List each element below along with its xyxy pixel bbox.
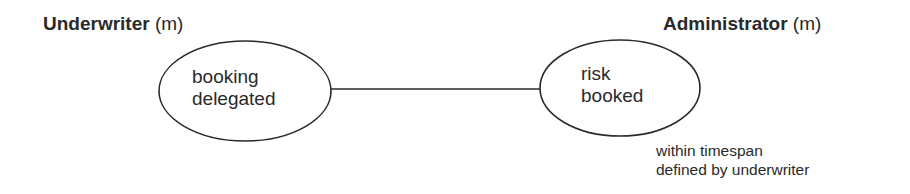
note-line2: defined by underwriter: [656, 160, 809, 179]
role-administrator: Administrator (m): [663, 13, 821, 35]
role-underwriter: Underwriter (m): [43, 13, 183, 35]
role-qualifier: (m): [793, 13, 821, 34]
state-line1: risk: [581, 63, 643, 85]
state-line2: booked: [581, 85, 643, 107]
state-label-risk-booked: risk booked: [581, 63, 643, 107]
state-line2: delegated: [192, 88, 275, 110]
role-name: Underwriter: [43, 13, 150, 34]
role-qualifier: (m): [155, 13, 183, 34]
state-label-booking-delegated: booking delegated: [192, 66, 275, 110]
state-line1: booking: [192, 66, 275, 88]
note-line1: within timespan: [656, 141, 809, 160]
role-name: Administrator: [663, 13, 788, 34]
timespan-note: within timespan defined by underwriter: [656, 141, 809, 179]
